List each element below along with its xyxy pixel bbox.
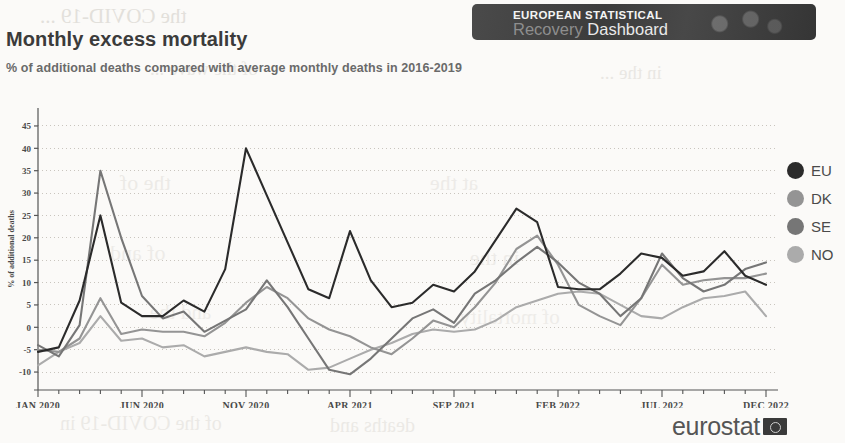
svg-text:10: 10 [22, 278, 32, 288]
svg-text:35: 35 [22, 166, 32, 176]
svg-text:JUN 2020: JUN 2020 [120, 400, 164, 408]
legend-label: EU [811, 162, 832, 179]
page-subtitle: % of additional deaths compared with ave… [6, 61, 462, 75]
chart-y-axis-title: % of additional deaths [7, 210, 16, 288]
svg-text:25: 25 [22, 211, 32, 221]
european-statistical-recovery-dashboard-badge: EUROPEAN STATISTICAL Recovery Dashboard [472, 4, 816, 40]
svg-text:0: 0 [27, 323, 32, 333]
svg-text:APR 2021: APR 2021 [327, 400, 372, 408]
svg-text:SEP 2021: SEP 2021 [433, 400, 476, 408]
svg-text:% of additional deaths: % of additional deaths [7, 210, 16, 288]
eurostat-logo: eurostat [672, 412, 787, 441]
eurostat-wordmark: eurostat [672, 412, 760, 441]
chart-y-tick-labels: -10-5051015202530354045 [19, 121, 38, 377]
bleed-through-text: in the ... [600, 62, 662, 84]
bleed-through-text: of the COVID-19 in [60, 412, 222, 435]
legend-color-dot-no [787, 246, 804, 263]
legend-color-dot-se [787, 218, 804, 235]
svg-text:-5: -5 [24, 345, 32, 355]
svg-text:JUL 2022: JUL 2022 [640, 400, 683, 408]
bleed-through-text: deaths and [330, 414, 415, 437]
badge-dashboard-word: Dashboard [587, 20, 668, 38]
legend-color-dot-dk [787, 190, 804, 207]
chart-legend: EUDKSENO [787, 156, 834, 268]
svg-text:NOV 2020: NOV 2020 [223, 400, 270, 408]
legend-item-dk[interactable]: DK [787, 184, 834, 212]
svg-text:-10: -10 [19, 367, 31, 377]
svg-text:FEB 2022: FEB 2022 [536, 400, 580, 408]
svg-text:15: 15 [22, 255, 32, 265]
chart-x-tick-labels: JAN 2020JUN 2020NOV 2020APR 2021SEP 2021… [16, 390, 789, 408]
legend-item-eu[interactable]: EU [787, 156, 834, 184]
svg-text:5: 5 [27, 300, 32, 310]
eu-flag-icon [763, 418, 787, 435]
chart-series-lines [38, 148, 766, 374]
series-line-dk [38, 236, 766, 355]
legend-item-se[interactable]: SE [787, 212, 834, 240]
series-line-eu [38, 148, 766, 352]
legend-color-dot-eu [787, 162, 804, 179]
legend-label: NO [811, 246, 834, 263]
svg-text:20: 20 [22, 233, 32, 243]
chart-plot-area: -10-5051015202530354045 JAN 2020JUN 2020… [0, 98, 845, 408]
chart-axes [34, 108, 778, 390]
page-title: Monthly excess mortality [6, 28, 247, 51]
badge-line-2: Recovery Dashboard [513, 20, 668, 39]
svg-text:DEC 2022: DEC 2022 [743, 400, 789, 408]
svg-text:30: 30 [22, 188, 32, 198]
svg-text:40: 40 [22, 144, 32, 154]
bleed-through-text: the COVID-19 ... [40, 4, 186, 29]
badge-recovery-word: Recovery [513, 20, 583, 38]
legend-item-no[interactable]: NO [787, 240, 834, 268]
svg-text:JAN 2020: JAN 2020 [16, 400, 60, 408]
svg-text:45: 45 [22, 121, 32, 131]
line-chart-svg: -10-5051015202530354045 JAN 2020JUN 2020… [0, 98, 845, 408]
legend-label: DK [811, 190, 832, 207]
legend-label: SE [811, 218, 831, 235]
